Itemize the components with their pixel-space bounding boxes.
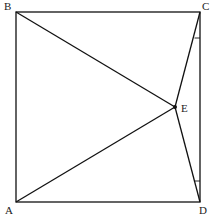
- segment-ce: [175, 12, 200, 107]
- label-e: E: [181, 102, 188, 114]
- geometry-diagram: B C A D E: [0, 0, 212, 222]
- label-c: C: [202, 0, 209, 12]
- segment-ae: [16, 107, 175, 202]
- segment-de: [175, 107, 200, 202]
- square-abcd: [16, 12, 200, 202]
- segment-be: [16, 12, 175, 107]
- label-b: B: [4, 0, 11, 12]
- point-e-dot: [173, 105, 177, 109]
- label-d: D: [199, 204, 207, 216]
- label-a: A: [5, 204, 13, 216]
